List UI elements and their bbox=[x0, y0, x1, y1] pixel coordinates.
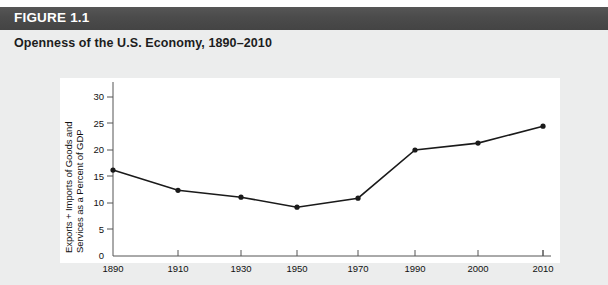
x-axis-ticks bbox=[178, 250, 543, 256]
data-line-series bbox=[113, 126, 543, 207]
data-point-1970 bbox=[355, 196, 360, 201]
data-point-1890 bbox=[110, 168, 115, 173]
figure-container: FIGURE 1.1 Openness of the U.S. Economy,… bbox=[0, 0, 608, 285]
y-axis-ticks bbox=[107, 97, 113, 229]
data-point-1930 bbox=[238, 195, 243, 200]
data-point-1990 bbox=[412, 147, 417, 152]
data-point-1910 bbox=[175, 188, 180, 193]
data-point-1950 bbox=[294, 205, 299, 210]
data-point-2010 bbox=[540, 124, 545, 129]
data-point-2000 bbox=[475, 141, 480, 146]
chart-svg bbox=[0, 0, 608, 285]
line-chart: Services as a Percent of GDP Exports + I… bbox=[0, 0, 608, 285]
data-point-markers bbox=[110, 124, 545, 210]
